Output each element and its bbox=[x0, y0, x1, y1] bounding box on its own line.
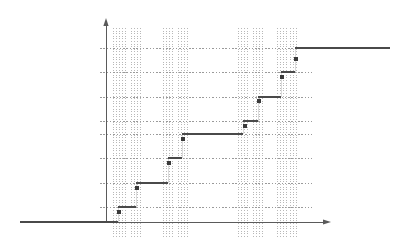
data-point-marker bbox=[243, 124, 246, 127]
chart-canvas bbox=[0, 0, 406, 252]
plot-background bbox=[0, 0, 406, 252]
data-point-marker bbox=[181, 137, 184, 140]
data-point-marker bbox=[294, 57, 297, 60]
data-point-marker bbox=[257, 99, 260, 102]
data-point-marker bbox=[117, 210, 120, 213]
data-point-marker bbox=[280, 75, 283, 78]
data-point-marker bbox=[135, 186, 138, 189]
data-point-marker bbox=[167, 161, 170, 164]
ecdf-step-plot bbox=[0, 0, 406, 252]
